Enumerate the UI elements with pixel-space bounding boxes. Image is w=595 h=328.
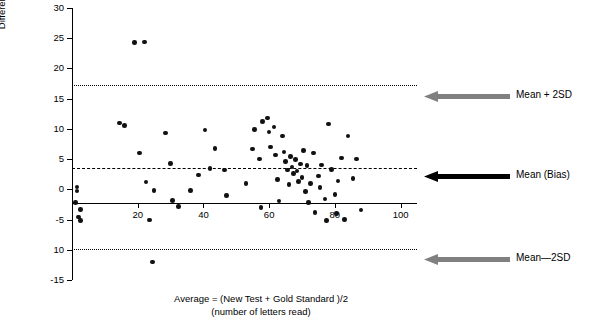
data-point bbox=[75, 189, 80, 194]
data-point bbox=[273, 153, 278, 158]
data-point bbox=[117, 121, 122, 126]
data-point bbox=[296, 179, 301, 184]
x-tick-label: 100 bbox=[386, 210, 416, 219]
x-tick bbox=[269, 203, 270, 208]
data-point bbox=[280, 134, 285, 139]
data-point bbox=[334, 211, 339, 216]
data-point bbox=[260, 119, 265, 124]
data-point bbox=[323, 197, 328, 202]
data-point bbox=[359, 208, 364, 213]
data-point bbox=[336, 179, 341, 184]
label-mean-minus-2sd: Mean—2SD bbox=[516, 252, 570, 264]
data-point bbox=[342, 217, 347, 222]
y-tick bbox=[67, 38, 72, 39]
reference-line-mean-minus-2sd bbox=[72, 249, 417, 250]
arrow-mean-bias bbox=[424, 171, 510, 182]
data-point bbox=[318, 185, 323, 190]
data-point bbox=[188, 188, 193, 193]
data-point bbox=[150, 260, 155, 265]
data-point bbox=[265, 116, 270, 121]
y-tick bbox=[67, 8, 72, 9]
data-point bbox=[257, 157, 262, 162]
data-point bbox=[152, 188, 157, 193]
data-point bbox=[316, 174, 321, 179]
data-point bbox=[329, 167, 334, 172]
label-mean-bias: Mean (Bias) bbox=[516, 169, 570, 181]
data-point bbox=[244, 181, 249, 186]
y-tick bbox=[67, 220, 72, 221]
data-point bbox=[147, 218, 152, 223]
data-point bbox=[285, 168, 290, 173]
data-point bbox=[196, 173, 201, 178]
y-axis-title: Difference New Test – Gold Standard Test… bbox=[0, 0, 20, 36]
data-point bbox=[333, 192, 338, 197]
y-tick-label: 10 bbox=[38, 124, 64, 133]
data-point bbox=[144, 180, 149, 185]
data-point bbox=[272, 125, 277, 130]
data-point bbox=[300, 175, 305, 180]
x-axis-title-line2: (number of letters read) bbox=[96, 305, 426, 318]
y-tick bbox=[67, 99, 72, 100]
data-point bbox=[313, 210, 318, 215]
data-point bbox=[275, 177, 280, 182]
data-point bbox=[78, 218, 83, 223]
y-tick bbox=[67, 189, 72, 190]
data-point bbox=[326, 122, 331, 127]
y-tick-label: 15 bbox=[38, 94, 64, 103]
x-tick-label: 40 bbox=[188, 210, 218, 219]
x-tick bbox=[335, 203, 336, 208]
data-point bbox=[259, 205, 264, 210]
y-tick-label: 0 bbox=[38, 184, 64, 193]
y-tick-label: 10 bbox=[38, 245, 64, 254]
y-tick bbox=[67, 159, 72, 160]
data-point bbox=[73, 200, 78, 205]
data-point bbox=[122, 123, 127, 128]
y-axis-title-line1: Difference New Test – Gold Standard Test bbox=[0, 0, 8, 36]
data-point bbox=[324, 218, 329, 223]
x-tick bbox=[203, 203, 204, 208]
data-point bbox=[346, 134, 351, 139]
y-tick bbox=[67, 68, 72, 69]
data-point bbox=[306, 200, 311, 205]
y-axis-title-line2: (number of letters read) bbox=[8, 0, 20, 36]
data-point bbox=[224, 193, 229, 198]
data-point bbox=[298, 162, 303, 167]
data-point bbox=[287, 182, 292, 187]
data-point bbox=[137, 151, 142, 156]
x-axis-title-line1: Average = (New Test + Gold Standard )/2 bbox=[96, 292, 426, 305]
y-tick-label: 20 bbox=[38, 63, 64, 72]
data-point bbox=[282, 150, 287, 155]
y-tick-label: 5 bbox=[38, 154, 64, 163]
y-tick bbox=[67, 280, 72, 281]
data-point bbox=[354, 157, 359, 162]
data-point bbox=[293, 157, 298, 162]
reference-line-mean-bias bbox=[72, 168, 417, 169]
data-point bbox=[311, 151, 316, 156]
x-tick bbox=[138, 203, 139, 208]
data-point bbox=[213, 146, 218, 151]
data-point bbox=[301, 148, 306, 153]
data-point bbox=[208, 166, 213, 171]
data-point bbox=[203, 128, 208, 133]
y-tick-label: -15 bbox=[38, 275, 64, 284]
data-point bbox=[168, 161, 173, 166]
x-tick-label: 60 bbox=[254, 210, 284, 219]
y-axis-line bbox=[72, 8, 73, 280]
data-point bbox=[78, 207, 83, 212]
data-point bbox=[222, 168, 227, 173]
data-point bbox=[295, 169, 300, 174]
x-axis-line bbox=[72, 203, 417, 204]
data-point bbox=[283, 159, 288, 164]
y-tick-label: 30 bbox=[38, 3, 64, 12]
arrow-mean-plus-2sd bbox=[424, 91, 510, 102]
data-point bbox=[132, 40, 137, 45]
plot-area: -1510-5051015202530 20406080100 bbox=[72, 8, 417, 280]
data-point bbox=[267, 130, 272, 135]
data-point bbox=[176, 204, 181, 209]
data-point bbox=[268, 145, 273, 150]
y-tick bbox=[67, 129, 72, 130]
data-point bbox=[250, 147, 255, 152]
x-axis-title: Average = (New Test + Gold Standard )/2 … bbox=[96, 292, 426, 318]
data-point bbox=[351, 176, 356, 181]
data-point bbox=[142, 40, 147, 45]
